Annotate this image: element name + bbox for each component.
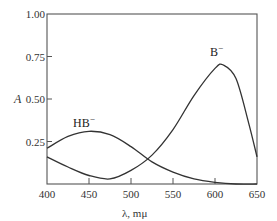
y-tick-label: 0.50	[26, 93, 46, 105]
x-tick-label: 650	[249, 188, 266, 200]
plot-border	[47, 14, 257, 184]
x-tick-label: 450	[81, 188, 98, 200]
y-tick-label: 1.00	[26, 8, 46, 20]
hb-minus-curve	[47, 131, 257, 184]
absorbance-spectrum-chart: 0.250.500.751.00 400450500550600650 HB−B…	[0, 0, 277, 221]
y-axis-label: A	[13, 92, 22, 106]
y-tick-label: 0.75	[26, 51, 46, 63]
y-axis-ticks: 0.250.500.751.00	[26, 8, 52, 148]
x-tick-label: 600	[207, 188, 224, 200]
y-tick-label: 0.25	[26, 136, 46, 148]
x-tick-label: 400	[39, 188, 56, 200]
b-minus-label: B−	[210, 43, 223, 59]
x-axis-label: λ, mμ	[122, 207, 147, 219]
hb-minus-label: HB−	[73, 114, 95, 130]
plot-frame	[47, 14, 257, 184]
x-tick-label: 550	[165, 188, 182, 200]
x-axis-ticks: 400450500550600650	[39, 178, 266, 200]
x-tick-label: 500	[123, 188, 140, 200]
